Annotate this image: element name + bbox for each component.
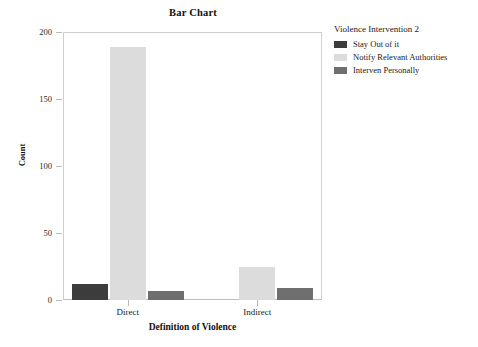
legend-swatch-icon <box>334 41 347 48</box>
y-tick: 200 <box>0 27 63 37</box>
bar <box>239 267 275 301</box>
y-tick-label: 200 <box>39 27 52 37</box>
y-tick-label: 50 <box>44 228 53 238</box>
y-tick-label: 150 <box>39 94 52 104</box>
y-tick: 50 <box>0 228 63 238</box>
y-tick-mark <box>56 166 62 167</box>
bar <box>277 288 313 300</box>
legend-item: Notify Relevant Authorities <box>334 52 476 62</box>
y-axis-label: Count <box>17 125 27 185</box>
x-tick-mark <box>257 300 258 306</box>
x-tick-mark <box>128 300 129 306</box>
legend-label: Interven Personally <box>353 65 419 75</box>
legend-label: Stay Out of it <box>353 39 399 49</box>
x-axis-label: Definition of Violence <box>63 322 322 332</box>
bar <box>148 291 184 300</box>
y-tick-mark <box>56 32 62 33</box>
bar <box>110 47 146 300</box>
legend-items: Stay Out of itNotify Relevant Authoritie… <box>334 39 476 75</box>
legend-item: Stay Out of it <box>334 39 476 49</box>
y-tick-label: 0 <box>48 295 52 305</box>
y-tick-mark <box>56 233 62 234</box>
bar-chart-figure: Bar Chart Count 050100150200 DirectIndir… <box>0 0 478 347</box>
y-tick: 150 <box>0 94 63 104</box>
legend-title: Violence Intervention 2 <box>334 24 476 34</box>
legend-swatch-icon <box>334 54 347 61</box>
legend-swatch-icon <box>334 67 347 74</box>
legend: Violence Intervention 2 Stay Out of itNo… <box>334 24 476 78</box>
y-tick: 0 <box>0 295 63 305</box>
y-tick-mark <box>56 300 62 301</box>
y-tick-label: 100 <box>39 161 52 171</box>
bar <box>72 284 108 300</box>
x-tick-label: Direct <box>83 307 173 317</box>
legend-label: Notify Relevant Authorities <box>353 52 447 62</box>
x-tick-label: Indirect <box>212 307 302 317</box>
bars-layer <box>63 32 322 300</box>
legend-item: Interven Personally <box>334 65 476 75</box>
y-tick-mark <box>56 99 62 100</box>
y-tick: 100 <box>0 161 63 171</box>
chart-title: Bar Chart <box>63 7 323 18</box>
